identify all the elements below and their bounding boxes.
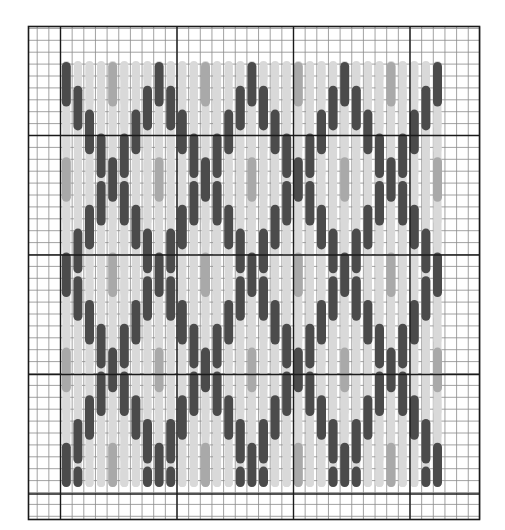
dark-stitch — [236, 229, 245, 274]
dark-stitch — [224, 395, 233, 440]
dark-stitch — [247, 62, 256, 107]
dark-stitch — [259, 276, 268, 321]
dark-stitch — [143, 229, 152, 274]
dark-stitch — [213, 133, 222, 178]
medium-stitch — [340, 157, 349, 202]
light-stitch — [318, 468, 326, 487]
dark-stitch — [131, 395, 140, 440]
light-stitch — [376, 468, 384, 487]
dark-stitch — [421, 467, 430, 487]
dark-stitch — [352, 86, 361, 131]
light-stitch — [225, 468, 233, 487]
dark-stitch — [166, 276, 175, 321]
medium-stitch — [108, 443, 117, 487]
light-stitch — [190, 468, 198, 487]
dark-stitch — [224, 110, 233, 155]
dark-stitch — [155, 62, 164, 107]
dark-stitch — [433, 252, 442, 297]
light-stitch — [364, 468, 372, 487]
dark-stitch — [143, 86, 152, 131]
medium-stitch — [387, 443, 396, 487]
dark-stitch — [352, 276, 361, 321]
dark-stitch — [340, 443, 349, 487]
dark-stitch — [329, 276, 338, 321]
dark-stitch — [317, 205, 326, 250]
dark-stitch — [352, 419, 361, 464]
medium-stitch — [247, 157, 256, 202]
dark-stitch — [236, 276, 245, 321]
dark-stitch — [120, 181, 129, 226]
dark-stitch — [282, 324, 291, 369]
medium-stitch — [294, 443, 303, 487]
dark-stitch — [97, 133, 106, 178]
dark-stitch — [166, 86, 175, 131]
dark-stitch — [85, 300, 94, 345]
dark-stitch — [340, 252, 349, 297]
medium-stitch — [108, 252, 117, 297]
dark-stitch — [410, 395, 419, 440]
medium-stitch — [433, 348, 442, 393]
dark-stitch — [131, 205, 140, 250]
dark-stitch — [375, 324, 384, 369]
dark-stitch — [73, 86, 82, 131]
light-stitch — [283, 468, 291, 487]
dark-stitch — [73, 419, 82, 464]
dark-stitch — [143, 467, 152, 487]
dark-stitch — [166, 419, 175, 464]
dark-stitch — [120, 133, 129, 178]
dark-stitch — [352, 467, 361, 487]
dark-stitch — [421, 86, 430, 131]
dark-stitch — [271, 205, 280, 250]
dark-stitch — [85, 205, 94, 250]
dark-stitch — [224, 205, 233, 250]
dark-stitch — [155, 443, 164, 487]
dark-stitch — [352, 229, 361, 274]
dark-stitch — [375, 133, 384, 178]
dark-stitch — [155, 252, 164, 297]
dark-stitch — [259, 419, 268, 464]
dark-stitch — [305, 324, 314, 369]
dark-stitch — [85, 110, 94, 155]
dark-stitch — [259, 86, 268, 131]
medium-stitch — [247, 348, 256, 393]
dark-stitch — [97, 181, 106, 226]
dark-stitch — [410, 110, 419, 155]
medium-stitch — [387, 62, 396, 107]
dark-stitch — [433, 62, 442, 107]
light-stitch — [306, 468, 314, 487]
dark-stitch — [317, 110, 326, 155]
dark-stitch — [259, 229, 268, 274]
medium-stitch — [294, 62, 303, 107]
dark-stitch — [317, 395, 326, 440]
dark-stitch — [375, 371, 384, 416]
dark-stitch — [271, 300, 280, 345]
dark-stitch — [363, 395, 372, 440]
light-stitch — [132, 468, 140, 487]
light-stitch — [271, 468, 279, 487]
dark-stitch — [178, 300, 187, 345]
dark-stitch — [305, 371, 314, 416]
dark-stitch — [120, 371, 129, 416]
dark-stitch — [189, 324, 198, 369]
dark-stitch — [398, 371, 407, 416]
dark-stitch — [62, 62, 71, 107]
dark-stitch — [433, 443, 442, 487]
light-stitch — [399, 468, 407, 487]
dark-stitch — [166, 229, 175, 274]
dark-stitch — [236, 419, 245, 464]
dark-stitch — [329, 467, 338, 487]
dark-stitch — [236, 467, 245, 487]
dark-stitch — [294, 348, 303, 393]
dark-stitch — [213, 371, 222, 416]
light-stitch — [178, 468, 186, 487]
light-stitch — [97, 468, 105, 487]
dark-stitch — [271, 395, 280, 440]
dark-stitch — [329, 86, 338, 131]
medium-stitch — [201, 443, 210, 487]
dark-stitch — [317, 300, 326, 345]
dark-stitch — [62, 443, 71, 487]
dark-stitch — [398, 133, 407, 178]
dark-stitch — [259, 467, 268, 487]
medium-stitch — [108, 62, 117, 107]
medium-stitch — [155, 348, 164, 393]
